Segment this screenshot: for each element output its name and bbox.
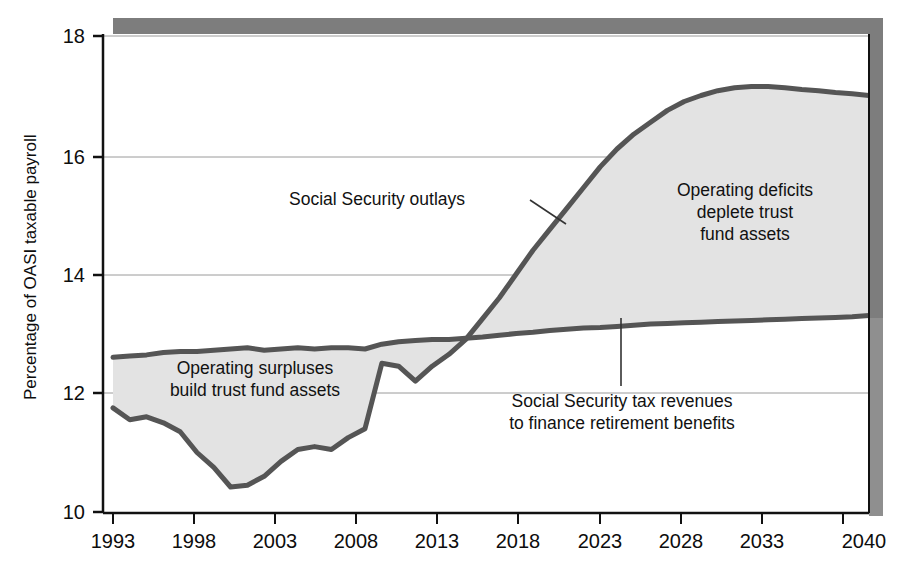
x-tick-label-1998: 1998 [172,530,217,552]
y-tick-label-14: 14 [63,264,85,286]
x-tick-label-2033: 2033 [740,530,785,552]
social-security-area-chart: 18 16 14 12 10 1993 1998 2003 2008 2013 … [0,0,911,573]
annotation-surpluses-line-1: Operating surpluses [177,358,334,378]
annotation-revenues-line-1: Social Security tax revenues [512,391,733,411]
x-tick-label-2008: 2008 [334,530,379,552]
annotation-surpluses-line-2: build trust fund assets [170,380,340,400]
x-tick-label-2013: 2013 [415,530,460,552]
annotation-deficits-line-3: fund assets [700,224,790,244]
y-tick-label-16: 16 [63,146,85,168]
y-tick-label-10: 10 [63,501,85,523]
y-tick-label-12: 12 [63,382,85,404]
chart-container: 18 16 14 12 10 1993 1998 2003 2008 2013 … [0,0,911,573]
x-tick-label-1993: 1993 [91,530,136,552]
annotation-deficits-line-2: deplete trust [697,202,793,222]
x-tick-label-2023: 2023 [578,530,623,552]
x-tick-label-2003: 2003 [253,530,298,552]
annotation-outlays-label: Social Security outlays [289,189,465,209]
annotation-revenues-line-2: to finance retirement benefits [509,413,735,433]
y-tick-label-18: 18 [63,25,85,47]
x-tick-label-2028: 2028 [659,530,704,552]
y-axis-title: Percentage of OASI taxable payroll [21,134,40,400]
x-tick-label-2040: 2040 [842,530,887,552]
annotation-deficits-line-1: Operating deficits [677,180,813,200]
x-tick-label-2018: 2018 [496,530,541,552]
